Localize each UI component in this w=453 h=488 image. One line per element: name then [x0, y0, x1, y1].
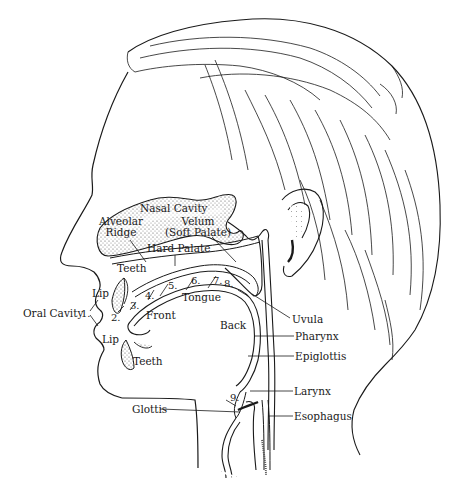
label-velum: Velum (Soft Palate) — [163, 216, 233, 238]
label-teeth-lower: Teeth — [133, 356, 163, 367]
ear — [282, 189, 323, 276]
label-nasal-cavity: Nasal Cavity — [140, 203, 208, 214]
esophagus — [262, 400, 270, 470]
label-alveolar-line2: Ridge — [96, 227, 146, 238]
pharynx-wall — [262, 240, 275, 450]
vocal-tract-diagram: Nasal Cavity Velum (Soft Palate) Alveola… — [0, 0, 453, 488]
label-esophagus: Esophagus — [294, 411, 352, 422]
label-oral-cavity: Oral Cavity — [23, 308, 83, 319]
label-num-6: 6. — [191, 275, 201, 286]
label-glottis: Glottis — [132, 404, 167, 415]
label-num-3: 3. — [130, 300, 140, 311]
label-front: Front — [146, 310, 176, 321]
label-num-5: 5. — [168, 280, 178, 291]
label-hard-palate: Hard Palate — [147, 243, 210, 254]
label-pharynx: Pharynx — [295, 331, 339, 342]
label-num-9: 9. — [230, 392, 240, 403]
label-alveolar-ridge: Alveolar Ridge — [96, 216, 146, 238]
label-num-8: 8. — [224, 278, 234, 289]
label-larynx: Larynx — [294, 386, 331, 397]
label-lip-lower: Lip — [102, 334, 119, 345]
label-tongue: Tongue — [182, 292, 221, 303]
head-illustration — [0, 0, 453, 488]
label-num-4: 4. — [145, 290, 155, 301]
label-teeth-upper: Teeth — [117, 263, 147, 274]
label-velum-line2: (Soft Palate) — [163, 227, 233, 238]
label-epiglottis: Epiglottis — [295, 351, 346, 362]
label-uvula: Uvula — [292, 314, 323, 325]
label-num-1: 1. — [81, 308, 91, 319]
label-back: Back — [220, 320, 246, 331]
label-num-2: 2. — [111, 312, 121, 323]
upper-teeth — [112, 278, 125, 313]
label-num-7: 7. — [213, 275, 223, 286]
label-lip-upper: Lip — [92, 288, 109, 299]
